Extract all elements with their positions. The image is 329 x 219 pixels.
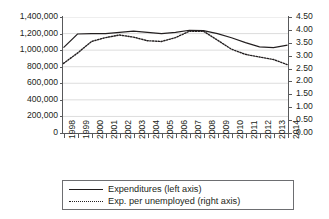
x-axis-tick xyxy=(120,134,121,138)
right-axis-tick-label: 3.50 xyxy=(296,38,313,47)
right-axis-tick-label: 4.50 xyxy=(296,12,313,21)
x-axis-tick xyxy=(64,134,65,138)
right-axis-tick-label: 3.00 xyxy=(296,51,313,60)
left-axis-tick-label: 0 xyxy=(53,128,58,137)
x-axis-tick xyxy=(162,134,163,138)
x-axis-tick xyxy=(78,134,79,138)
x-axis-tick xyxy=(204,134,205,138)
dotted-line-swatch-icon xyxy=(69,196,103,206)
right-axis-tick xyxy=(289,43,293,44)
right-axis-tick xyxy=(289,81,293,82)
solid-line-swatch-icon xyxy=(69,184,103,194)
right-axis-tick xyxy=(289,107,293,108)
left-axis-tick-label: 800,000 xyxy=(27,62,58,71)
legend-item-label: Expenditures (left axis) xyxy=(108,184,201,194)
x-axis-tick-label: 2014 xyxy=(292,120,301,139)
chart-figure: 0200,000400,000600,000800,0001,000,0001,… xyxy=(0,0,329,219)
legend-item-exp-per-unemployed: Exp. per unemployed (right axis) xyxy=(69,195,240,207)
left-axis-tick-label: 600,000 xyxy=(27,78,58,87)
x-axis-tick xyxy=(288,134,289,138)
x-axis-tick xyxy=(218,134,219,138)
left-axis-tick-label: 1,000,000 xyxy=(20,45,58,54)
x-axis-tick xyxy=(190,134,191,138)
left-axis-tick-label: 1,400,000 xyxy=(20,12,58,21)
line-exp-per-unemployed xyxy=(64,31,288,65)
plot-area xyxy=(63,17,288,133)
right-axis-tick-label: 1.00 xyxy=(296,102,313,111)
right-axis-tick-label: 2.00 xyxy=(296,76,313,85)
legend-item-label: Exp. per unemployed (right axis) xyxy=(108,196,240,206)
x-axis-tick xyxy=(274,134,275,138)
legend: Expenditures (left axis) Exp. per unempl… xyxy=(62,180,294,210)
right-axis-tick-label: 2.50 xyxy=(296,64,313,73)
right-axis-tick xyxy=(289,56,293,57)
legend-item-expenditures: Expenditures (left axis) xyxy=(69,183,201,195)
x-axis-tick xyxy=(92,134,93,138)
right-axis-tick-label: 4.00 xyxy=(296,25,313,34)
right-axis-tick xyxy=(289,17,293,18)
right-axis-tick xyxy=(289,30,293,31)
right-axis-tick xyxy=(289,69,293,70)
line-expenditures xyxy=(64,30,288,47)
x-axis-tick xyxy=(232,134,233,138)
x-axis-tick xyxy=(134,134,135,138)
x-axis-tick xyxy=(260,134,261,138)
series-lines xyxy=(63,17,288,133)
left-axis-tick xyxy=(60,133,64,134)
left-axis-tick-label: 200,000 xyxy=(27,111,58,120)
x-axis-tick xyxy=(176,134,177,138)
right-axis-tick-label: 1.50 xyxy=(296,89,313,98)
x-axis-tick xyxy=(148,134,149,138)
right-axis-tick xyxy=(289,94,293,95)
left-axis-tick-label: 400,000 xyxy=(27,95,58,104)
x-axis-tick xyxy=(106,134,107,138)
x-axis-tick xyxy=(246,134,247,138)
left-axis-tick-label: 1,200,000 xyxy=(20,29,58,38)
right-axis-line xyxy=(288,16,289,134)
